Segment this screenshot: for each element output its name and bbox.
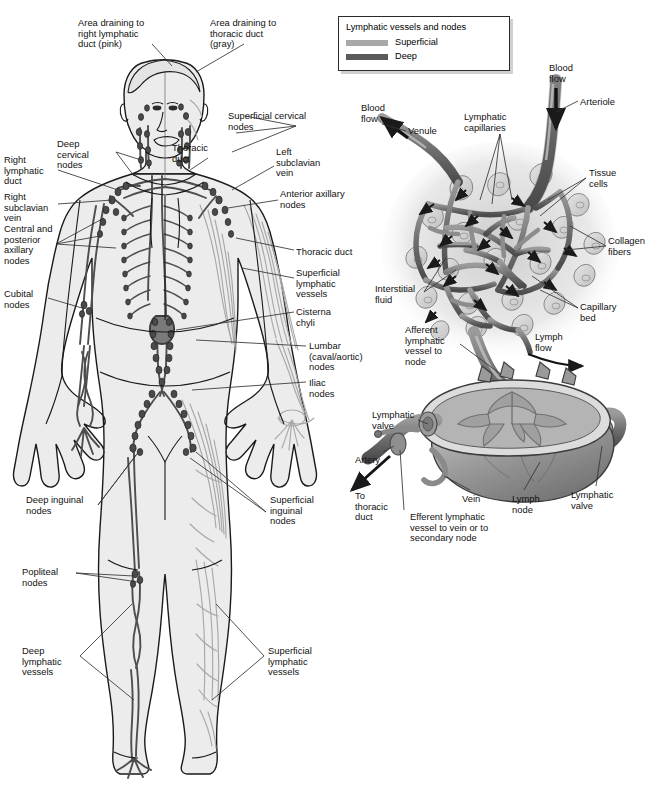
legend-box: Lymphatic vessels and nodes Superficial … [338,16,510,71]
capillary-label-blood-flow-venule: Blood flow [361,103,385,124]
body-label-thoracic-duct-lower: Thoracic duct [296,247,352,258]
legend-item-superficial: Superficial [346,37,438,47]
lymphatic-system-figure: Lymphatic vessels and nodes Superficial … [0,0,652,804]
body-label-deep-inguinal-nodes: Deep inguinal nodes [26,495,83,516]
node-label-vein: Vein [462,494,480,505]
legend-item-deep: Deep [346,51,417,61]
body-label-right-lymphatic-duct: Right lymphatic duct [4,155,44,187]
body-label-deep-lymphatic-vessels: Deep lymphatic vessels [22,646,62,678]
capillary-label-capillary-bed: Capillary bed [580,302,616,323]
figure-canvas [0,0,652,804]
body-label-area-thoracic-duct: Area draining to thoracic duct (gray) [210,18,276,50]
capillary-label-interstitial-fluid: Interstitial fluid [375,284,415,305]
node-label-lymphatic-valve-left: Lymphatic valve [372,410,414,431]
lymph-node-illustration [352,362,620,510]
body-label-superficial-lymphatic-vessels-leg: Superficial lymphatic vessels [268,646,312,678]
legend-swatch-superficial [346,40,388,46]
capillary-label-collagen-fibers: Collagen fibers [608,236,645,257]
node-label-artery: Artery [355,455,380,466]
body-label-right-subclavian-vein: Right subclavian vein [4,192,48,224]
legend-title: Lymphatic vessels and nodes [346,22,466,32]
node-label-to-thoracic-duct: To thoracic duct [355,491,388,523]
body-label-popliteal-nodes: Popliteal nodes [22,567,58,588]
body-label-iliac-nodes: Iliac nodes [309,378,335,399]
body-label-deep-cervical-nodes: Deep cervical nodes [57,139,89,171]
body-label-cisterna-chyli: Cisterna chyli [296,307,331,328]
body-label-area-right-duct: Area draining to right lymphatic duct (p… [78,18,144,50]
body-label-left-subclavian-vein: Left subclavian vein [276,147,320,179]
capillary-label-lymph-flow: Lymph flow [535,332,563,353]
capillary-label-lymphatic-capillaries: Lymphatic capillaries [464,112,506,133]
legend-label-superficial: Superficial [395,37,438,47]
capillary-label-afferent-lymphatic-vessel: Afferent lymphatic vessel to node [405,325,445,367]
legend-label-deep: Deep [395,51,417,61]
capillary-label-venule: Venule [408,126,437,137]
body-label-anterior-axillary-nodes: Anterior axillary nodes [280,189,345,210]
capillary-label-blood-flow-arteriole: Blood flow [549,63,573,84]
node-label-lymph-node: Lymph node [512,494,540,515]
node-label-lymphatic-valve-right: Lymphatic valve [571,490,613,511]
legend-swatch-deep [346,54,388,60]
body-label-superficial-cervical-nodes: Superficial cervical nodes [228,111,306,132]
node-label-efferent-lymphatic-vessel: Efferent lymphatic vessel to vein or to … [410,512,488,544]
body-label-superficial-lymphatic-vessels-trunk: Superficial lymphatic vessels [296,268,340,300]
body-label-central-posterior-axillary-nodes: Central and posterior axillary nodes [4,224,52,266]
lymph-flow-arrow [528,354,582,366]
body-label-thoracic-duct-upper: Thoracic duct [172,143,208,164]
body-label-lumbar-nodes: Lumbar (caval/aortic) nodes [309,341,363,373]
body-label-cubital-nodes: Cubital nodes [4,289,33,310]
capillary-label-arteriole: Arteriole [580,97,615,108]
capillary-label-tissue-cells: Tissue cells [589,168,616,189]
body-label-superficial-inguinal-nodes: Superficial inguinal nodes [270,495,314,527]
